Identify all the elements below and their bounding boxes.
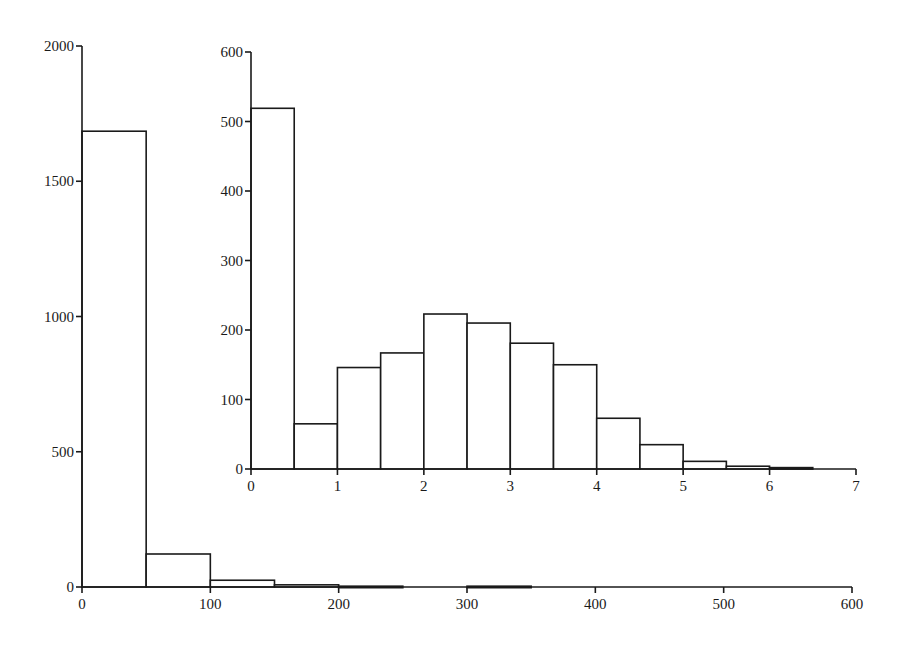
histogram-bar (82, 131, 146, 587)
x-tick-label: 5 (679, 478, 687, 494)
y-tick-label: 600 (221, 44, 244, 60)
histogram-bar (597, 418, 640, 469)
histogram-bar (510, 343, 553, 469)
y-tick-label: 1500 (44, 173, 74, 189)
x-tick-label: 400 (584, 596, 607, 612)
histogram-bar (424, 314, 467, 469)
x-tick-label: 3 (507, 478, 515, 494)
x-tick-label: 100 (199, 596, 222, 612)
x-tick-label: 7 (852, 478, 860, 494)
x-tick-label: 200 (327, 596, 350, 612)
histogram-bar (146, 554, 210, 587)
y-tick-label: 500 (221, 114, 244, 130)
y-tick-label: 1000 (44, 309, 74, 325)
histogram-bar (337, 368, 380, 469)
x-tick-label: 500 (712, 596, 735, 612)
histogram-bar (554, 365, 597, 469)
y-tick-label: 100 (221, 392, 244, 408)
y-tick-label: 200 (221, 322, 244, 338)
y-tick-label: 0 (236, 461, 244, 477)
x-tick-label: 6 (766, 478, 774, 494)
histogram-bar (683, 461, 726, 469)
histogram-bar (210, 580, 274, 587)
x-tick-label: 2 (420, 478, 428, 494)
x-tick-label: 4 (593, 478, 601, 494)
x-tick-label: 600 (841, 596, 864, 612)
histogram-figure: 05001000150020000100200300400500600 0100… (0, 0, 904, 665)
histogram-bar (381, 353, 424, 469)
y-tick-label: 0 (67, 579, 75, 595)
x-tick-label: 0 (247, 478, 255, 494)
histogram-bar (640, 445, 683, 469)
y-tick-label: 300 (221, 253, 244, 269)
y-tick-label: 400 (221, 183, 244, 199)
x-tick-label: 1 (334, 478, 342, 494)
y-tick-label: 2000 (44, 38, 74, 54)
inset-histogram: 010020030040050060001234567 (221, 44, 861, 494)
histogram-bar (294, 424, 337, 469)
y-tick-label: 500 (52, 444, 75, 460)
histogram-bar (251, 108, 294, 469)
histogram-bar (467, 323, 510, 469)
x-tick-label: 0 (78, 596, 86, 612)
x-tick-label: 300 (456, 596, 479, 612)
